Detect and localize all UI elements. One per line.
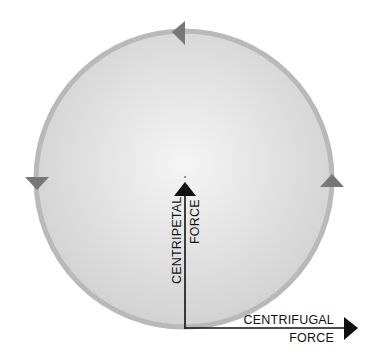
centripetal-label-line1: CENTRIPETAL xyxy=(170,197,184,284)
centrifugal-label-line1: CENTRIFUGAL xyxy=(244,313,334,327)
centripetal-label-line2: FORCE xyxy=(188,199,202,244)
centrifugal-label-line2: FORCE xyxy=(289,331,334,345)
centrifugal-arrowhead-icon xyxy=(344,317,358,340)
center-point xyxy=(184,176,186,178)
rotating-disk xyxy=(36,31,332,327)
force-diagram: CENTRIPETAL FORCE CENTRIFUGAL FORCE xyxy=(0,0,375,364)
